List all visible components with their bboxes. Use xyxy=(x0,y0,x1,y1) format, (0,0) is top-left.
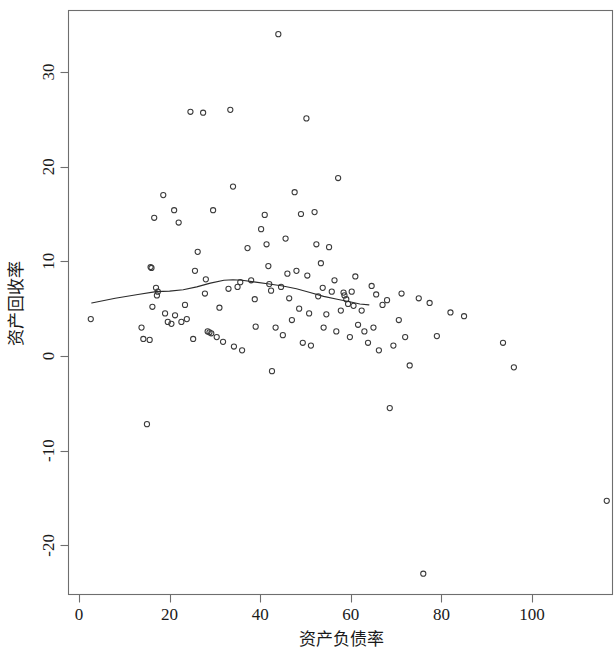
scatter-point xyxy=(287,296,292,301)
scatter-point xyxy=(269,369,274,374)
scatter-point xyxy=(403,334,408,339)
scatter-point xyxy=(285,271,290,276)
scatter-point xyxy=(176,220,181,225)
scatter-point xyxy=(231,344,236,349)
y-tick-label: 30 xyxy=(39,64,58,81)
scatter-point xyxy=(387,405,392,410)
y-tick-label: -20 xyxy=(39,534,58,557)
scatter-point xyxy=(217,305,222,310)
scatter-point xyxy=(262,212,267,217)
scatter-point xyxy=(264,242,269,247)
scatter-point xyxy=(188,109,193,114)
scatter-point xyxy=(220,339,225,344)
scatter-point xyxy=(334,329,339,334)
x-tick-label: 60 xyxy=(342,605,359,624)
scatter-point xyxy=(353,274,358,279)
scatter-point xyxy=(362,329,367,334)
scatter-point xyxy=(305,273,310,278)
y-axis-ticks xyxy=(61,73,69,546)
scatter-point xyxy=(141,336,146,341)
scatter-point xyxy=(266,263,271,268)
x-tick-label: 40 xyxy=(252,605,269,624)
scatter-point xyxy=(162,311,167,316)
scatter-point xyxy=(152,215,157,220)
scatter-point xyxy=(88,316,93,321)
scatter-point xyxy=(434,334,439,339)
scatter-point xyxy=(147,337,152,342)
scatter-point xyxy=(273,325,278,330)
scatter-point xyxy=(355,322,360,327)
scatter-points-group xyxy=(88,32,609,577)
smooth-trend-line xyxy=(92,280,369,305)
scatter-point xyxy=(376,348,381,353)
scatter-point xyxy=(268,288,273,293)
scatter-point xyxy=(320,285,325,290)
scatter-point xyxy=(144,422,149,427)
scatter-point xyxy=(252,297,257,302)
scatter-point xyxy=(391,343,396,348)
scatter-point xyxy=(369,283,374,288)
scatter-point xyxy=(191,336,196,341)
scatter-point xyxy=(184,316,189,321)
scatter-point xyxy=(399,291,404,296)
scatter-point xyxy=(307,311,312,316)
x-tick-label: 80 xyxy=(433,605,450,624)
scatter-point xyxy=(259,227,264,232)
scatter-point xyxy=(511,365,516,370)
scatter-point xyxy=(416,296,421,301)
scatter-point xyxy=(500,340,505,345)
scatter-point xyxy=(292,190,297,195)
scatter-point xyxy=(182,302,187,307)
scatter-point xyxy=(396,317,401,322)
y-tick-label: 20 xyxy=(39,158,58,175)
scatter-point xyxy=(297,306,302,311)
scatter-point xyxy=(324,312,329,317)
scatter-point xyxy=(161,192,166,197)
scatter-point xyxy=(371,325,376,330)
scatter-point xyxy=(210,208,215,213)
scatter-point xyxy=(300,340,305,345)
scatter-point xyxy=(308,343,313,348)
scatter-point xyxy=(407,363,412,368)
scatter-point xyxy=(228,107,233,112)
y-axis-title: 资产回收率 xyxy=(7,261,26,346)
scatter-point xyxy=(245,245,250,250)
scatter-point xyxy=(321,325,326,330)
plot-frame xyxy=(69,11,613,595)
scatter-point xyxy=(172,313,177,318)
x-axis-title: 资产负债率 xyxy=(299,630,384,649)
scatter-point xyxy=(380,302,385,307)
scatter-point xyxy=(298,211,303,216)
scatter-point xyxy=(349,289,354,294)
scatter-point xyxy=(304,116,309,121)
scatter-point xyxy=(202,291,207,296)
scatter-point xyxy=(276,32,281,37)
scatter-point xyxy=(384,298,389,303)
scatter-point xyxy=(421,571,426,576)
scatter-point xyxy=(214,334,219,339)
x-axis-tick-labels: 020406080100 xyxy=(75,605,545,624)
scatter-point xyxy=(283,236,288,241)
y-axis-tick-labels: -20-100102030 xyxy=(39,64,58,557)
x-tick-label: 100 xyxy=(519,605,545,624)
scatter-point xyxy=(461,314,466,319)
scatter-point xyxy=(359,308,364,313)
y-tick-label: 10 xyxy=(39,253,58,270)
x-tick-label: 20 xyxy=(161,605,178,624)
scatter-point xyxy=(195,249,200,254)
scatter-point xyxy=(332,278,337,283)
y-tick-label: -10 xyxy=(39,439,58,462)
scatter-point xyxy=(314,242,319,247)
plot-canvas: 020406080100 -20-100102030 资产负债率 资产回收率 xyxy=(0,0,614,661)
scatter-point xyxy=(312,210,317,215)
scatter-point xyxy=(253,324,258,329)
scatter-point xyxy=(604,498,609,503)
scatter-point xyxy=(139,325,144,330)
scatter-point xyxy=(192,268,197,273)
scatter-point xyxy=(150,304,155,309)
scatter-point xyxy=(365,340,370,345)
scatter-point xyxy=(336,175,341,180)
scatter-point xyxy=(347,334,352,339)
y-tick-label: 0 xyxy=(39,352,58,361)
scatter-point xyxy=(226,286,231,291)
